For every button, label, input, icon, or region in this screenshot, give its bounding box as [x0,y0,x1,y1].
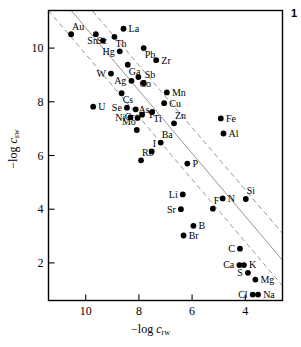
point-label-Th: Th [115,38,126,49]
point-label-Mn: Mn [172,87,186,98]
data-point-Br [181,233,187,239]
data-point-Li [180,192,186,198]
point-label-Ga: Ga [129,66,141,77]
point-label-Cr: Cr [125,111,136,122]
point-label-Si: Si [247,185,256,196]
point-label-La: La [129,23,140,34]
point-label-Ti: Ti [153,113,162,124]
figure-container: 10864246810 ClNaMgSCaKCBrBFSrNSiLiRbPIBa… [0,0,301,347]
data-point-W [108,71,114,77]
point-label-N: N [228,193,235,204]
data-point-Mo [134,127,140,133]
y-axis-label-subscript: sw [12,129,21,138]
point-label-Hg: Hg [102,46,114,57]
point-label-I: I [153,138,156,149]
data-point-Si [243,196,249,202]
data-point-La [121,26,127,32]
point-label-K: K [249,259,257,270]
point-label-Cu: Cu [169,98,181,109]
y-axis-label-wrapper: −log csw [3,89,21,209]
point-label-Cl: Cl [238,289,248,300]
y-tick-label: 4 [38,202,44,216]
point-label-Zr: Zr [161,55,171,66]
data-point-Mn [164,89,170,95]
figure-number: 1 [291,8,297,19]
data-point-Hg [117,48,123,54]
data-point-S [245,270,251,276]
point-label-Al: Al [229,128,239,139]
point-label-Mg: Mg [260,274,274,285]
point-label-B: B [199,220,206,231]
point-label-Se: Se [112,102,123,113]
point-label-P: P [192,158,198,169]
point-label-Cs: Cs [123,94,134,105]
data-point-Cu [161,100,167,106]
data-points-group [68,26,261,298]
point-label-F: F [214,195,220,206]
data-point-Au [68,31,74,37]
scatter-plot: 10864246810 ClNaMgSCaKCBrBFSrNSiLiRbPIBa… [0,0,301,347]
point-label-Br: Br [189,230,200,241]
line-upper-dashed-bound [49,11,283,286]
data-point-Fe [218,116,224,122]
x-axis-label: −log crw [0,322,301,337]
point-label-S: S [237,267,243,278]
data-point-N [220,196,226,202]
y-axis-label: −log csw [6,129,20,168]
data-point-Zn [171,120,177,126]
data-point-B [191,223,197,229]
data-point-C [237,246,243,252]
point-label-Au: Au [72,21,84,32]
data-point-Cl [250,292,256,298]
point-label-Ba: Ba [162,129,174,140]
y-axis-label-variable: c [6,138,20,143]
x-axis-label-subscript: rw [161,328,169,337]
point-label-Pb: Pb [145,49,156,60]
point-label-Li: Li [169,189,178,200]
data-point-Sr [178,206,184,212]
point-label-Sc: Sc [97,35,108,46]
x-tick-label: 6 [189,304,195,318]
point-label-Ca: Ca [223,259,235,270]
y-axis-label-prefix: −log [6,144,20,169]
y-tick-label: 8 [38,95,44,109]
data-point-Mg [252,277,258,283]
point-label-C: C [228,243,235,254]
data-point-Al [221,131,227,137]
data-point-Ag [129,78,135,84]
point-label-W: W [96,68,106,79]
point-label-Ag: Ag [114,75,126,86]
data-point-P [184,161,190,167]
data-point-Rb [138,157,144,163]
x-tick-label: 8 [136,304,142,318]
y-tick-label: 10 [32,41,44,55]
x-axis-label-prefix: −log [131,322,156,336]
regression-lines-group [49,0,283,286]
data-point-U [90,104,96,110]
y-tick-label: 6 [38,149,44,163]
point-label-Co: Co [139,78,151,89]
y-tick-label: 2 [38,256,44,270]
data-point-labels-group: ClNaMgSCaKCBrBFSrNSiLiRbPIBaAlMoZnFeNiAs… [72,21,275,300]
data-point-Ba [158,140,164,146]
data-point-Na [255,292,261,298]
x-tick-label: 10 [80,304,92,318]
data-point-F [210,206,216,212]
point-label-Sr: Sr [167,204,177,215]
point-label-Zn: Zn [175,110,186,121]
x-tick-label: 4 [242,304,248,318]
point-label-U: U [98,101,106,112]
point-label-Na: Na [263,289,275,300]
point-label-Fe: Fe [226,113,237,124]
